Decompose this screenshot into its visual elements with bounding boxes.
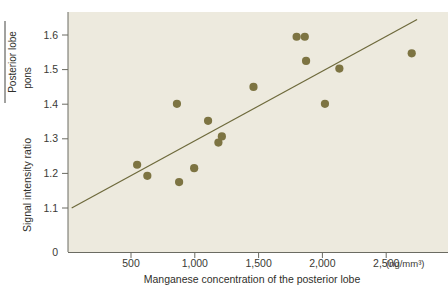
y-axis-title: Signal intensity ratio: [21, 138, 33, 232]
y-axis-fraction-numerator: Posterior lobe: [7, 31, 18, 93]
data-point: [190, 164, 198, 172]
x-tick-label: 2,000: [309, 257, 335, 269]
data-point: [133, 161, 141, 169]
data-point: [204, 117, 212, 125]
scatter-chart-figure: 01.11.21.31.41.51.6 5001,0001,5002,0002,…: [0, 0, 448, 286]
y-tick-label: 1.1: [43, 202, 58, 214]
x-axis-tick-labels: 5001,0001,5002,0002,500: [122, 257, 399, 269]
y-tick-label: 1.4: [43, 98, 58, 110]
data-point: [321, 100, 329, 108]
x-axis-unit-label: (ng/mm³): [386, 258, 425, 269]
x-tick-label: 1,500: [245, 257, 271, 269]
data-point: [302, 57, 310, 65]
y-axis-fraction-denominator: pons: [22, 67, 33, 89]
data-point: [293, 33, 301, 41]
x-axis-title: Manganese concentration of the posterior…: [144, 273, 361, 285]
x-tick-label: 1,000: [182, 257, 208, 269]
data-point: [335, 64, 343, 72]
y-tick-label: 1.3: [43, 132, 58, 144]
y-axis-ticks: [62, 35, 68, 208]
data-point: [218, 132, 226, 140]
plot-background: [68, 12, 448, 252]
data-point: [249, 83, 257, 91]
data-point: [175, 178, 183, 186]
data-point: [173, 100, 181, 108]
y-axis-tick-labels: 01.11.21.31.41.51.6: [43, 29, 58, 258]
data-point: [143, 172, 151, 180]
data-point: [301, 33, 309, 41]
y-tick-label: 0: [52, 246, 58, 258]
x-tick-label: 500: [122, 257, 140, 269]
y-tick-label: 1.2: [43, 167, 58, 179]
data-point: [408, 49, 416, 57]
y-tick-label: 1.6: [43, 29, 58, 41]
y-tick-label: 1.5: [43, 63, 58, 75]
chart-canvas: 01.11.21.31.41.51.6 5001,0001,5002,0002,…: [0, 0, 448, 286]
